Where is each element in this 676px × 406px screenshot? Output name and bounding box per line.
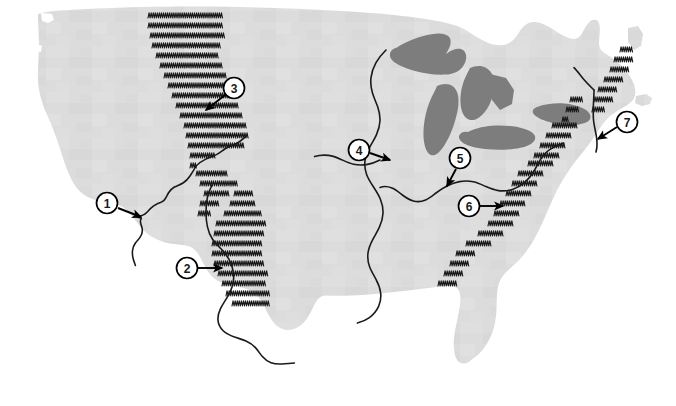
marker-label-4: 4 <box>356 144 363 158</box>
map-canvas: 1234567 <box>0 0 676 406</box>
marker-label-1: 1 <box>104 197 111 211</box>
marker-label-3: 3 <box>231 82 238 96</box>
marker-label-2: 2 <box>184 262 191 276</box>
marker-label-7: 7 <box>624 116 631 130</box>
marker-label-6: 6 <box>466 200 473 214</box>
marker-label-5: 5 <box>457 152 464 166</box>
physical-features-map: 1234567 <box>0 0 676 406</box>
